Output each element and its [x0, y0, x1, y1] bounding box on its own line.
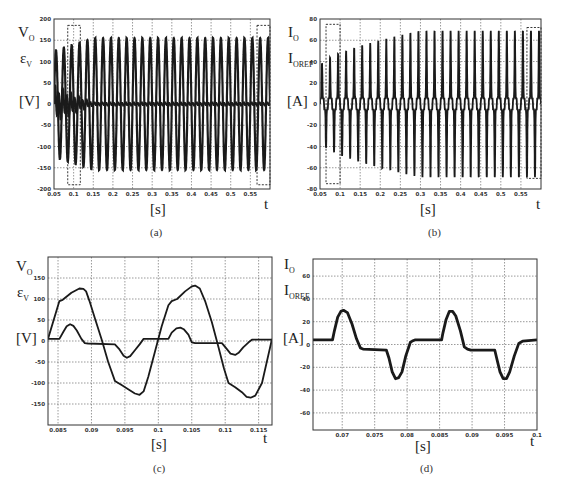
- panel-d: -60-40-2002040600.070.0750.080.0850.090.…: [280, 250, 561, 492]
- x-tick-label: 0.05: [313, 191, 327, 197]
- x-tick-label: 0.15: [353, 191, 367, 197]
- y-tick-label: 0: [41, 338, 45, 344]
- x-tick-label: 0.095: [116, 427, 134, 433]
- x-tick-label: 0.25: [394, 191, 408, 197]
- y-tick-label: -20: [300, 364, 310, 370]
- y-tick-label: -150: [37, 165, 51, 171]
- chart-d-plot: -60-40-2002040600.070.0750.080.0850.090.…: [280, 250, 561, 492]
- x-tick-label: 0.55: [514, 191, 528, 197]
- traces: [54, 38, 270, 170]
- x-tick-label: 0.4: [187, 191, 197, 197]
- xlabel-d-unit: [s]: [415, 438, 431, 455]
- ylabel-a-ev: εV: [20, 50, 32, 69]
- y-tick-label: 100: [40, 59, 52, 65]
- caption-a: (a): [150, 226, 162, 238]
- x-tick-label: 0.3: [147, 191, 157, 197]
- grid-lines: [48, 257, 272, 425]
- x-tick-label: 0.075: [366, 432, 384, 438]
- caption-d: (d): [420, 462, 433, 474]
- x-tick-label: 0.11: [218, 427, 232, 433]
- x-tick-label: 0.5: [226, 191, 236, 197]
- ylabel-d-ioref: IOREF: [284, 282, 309, 301]
- x-tick-label: 0.55: [244, 191, 258, 197]
- ylabel-c-vo: VO: [16, 258, 33, 277]
- ylabel-c-ev: εV: [17, 284, 29, 303]
- x-tick-label: 0.1: [335, 191, 345, 197]
- xlabel-c-unit: [s]: [151, 436, 167, 453]
- y-tick-label: -60: [307, 165, 317, 171]
- y-tick-label: 100: [34, 296, 46, 302]
- x-tick-label: 0.1: [69, 191, 79, 197]
- chart-c-plot: -150-100-500501001500.0850.090.0950.10.1…: [0, 250, 280, 492]
- y-tick-label: -100: [37, 144, 51, 150]
- x-tick-label: 0.25: [126, 191, 140, 197]
- x-tick-label: 0.35: [165, 191, 179, 197]
- y-tick-label: 0: [47, 101, 51, 107]
- xlabel-c-var: t: [263, 430, 267, 447]
- x-tick-label: 0.09: [85, 427, 99, 433]
- y-tick-label: 50: [37, 317, 45, 323]
- panel-a: -200-150-100-500501001502000.050.10.150.…: [0, 0, 280, 250]
- x-tick-label: 0.4: [456, 191, 466, 197]
- y-tick-label: 50: [43, 80, 51, 86]
- x-tick-label: 0.3: [416, 191, 426, 197]
- x-tick-label: 0.08: [400, 432, 414, 438]
- y-tick-label: 60: [309, 37, 317, 43]
- x-tick-label: 0.5: [496, 191, 506, 197]
- y-tick-label: -40: [307, 144, 317, 150]
- x-tick-label: 0.05: [47, 191, 61, 197]
- y-tick-label: 0: [313, 101, 317, 107]
- ylabel-b-io: IO: [288, 24, 299, 43]
- y-tick-label: -40: [300, 387, 310, 393]
- y-tick-label: -150: [31, 401, 45, 407]
- ylabel-a-vo: VO: [18, 24, 35, 43]
- traces: [48, 286, 272, 398]
- ylabel-b-ioref: IOREF: [288, 50, 313, 69]
- x-tick-label: 0.15: [86, 191, 100, 197]
- x-tick-label: 0.2: [108, 191, 118, 197]
- ylabel-d-io: IO: [284, 256, 295, 275]
- xlabel-a-unit: [s]: [150, 201, 166, 218]
- xlabel-a-var: t: [264, 196, 268, 213]
- y-tick-label: 60: [302, 273, 310, 279]
- x-tick-label: 0.105: [183, 427, 201, 433]
- chart-a-plot: -200-150-100-500501001502000.050.10.150.…: [0, 0, 280, 250]
- x-tick-label: 0.2: [375, 191, 385, 197]
- x-tick-label: 0.1: [153, 427, 163, 433]
- y-tick-label: -100: [31, 380, 45, 386]
- caption-b: (b): [428, 226, 441, 238]
- y-tick-label: -50: [35, 359, 45, 365]
- y-tick-label: 200: [40, 16, 52, 22]
- x-tick-label: 0.085: [431, 432, 449, 438]
- x-tick-label: 0.45: [204, 191, 218, 197]
- y-tick-label: 20: [309, 80, 317, 86]
- x-tick-label: 0.07: [335, 432, 349, 438]
- panel-b: -80-60-40-200204060800.050.10.150.20.250…: [280, 0, 561, 250]
- ylabel-c-unit: [V]: [16, 330, 37, 347]
- y-tick-label: -20: [307, 122, 317, 128]
- x-tick-label: 0.45: [474, 191, 488, 197]
- y-tick-label: 150: [34, 275, 46, 281]
- caption-c: (c): [153, 462, 165, 474]
- x-tick-label: 0.35: [434, 191, 448, 197]
- y-tick-label: -50: [41, 122, 51, 128]
- panel-c: -150-100-500501001500.0850.090.0950.10.1…: [0, 250, 280, 492]
- ylabel-d-unit: [A]: [283, 330, 304, 347]
- y-tick-label: -60: [300, 410, 310, 416]
- x-tick-label: 0.085: [49, 427, 67, 433]
- xlabel-b-unit: [s]: [420, 201, 436, 218]
- x-tick-label: 0.09: [465, 432, 479, 438]
- y-tick-label: 20: [302, 319, 310, 325]
- xlabel-d-var: t: [530, 433, 534, 450]
- y-tick-label: 150: [40, 37, 52, 43]
- ylabel-a-unit: [V]: [19, 93, 40, 110]
- ylabel-b-unit: [A]: [287, 93, 308, 110]
- xlabel-b-var: t: [536, 196, 540, 213]
- y-tick-label: 80: [309, 16, 317, 22]
- x-tick-label: 0.095: [496, 432, 514, 438]
- y-tick-label: 0: [306, 342, 310, 348]
- grid-lines: [313, 259, 537, 430]
